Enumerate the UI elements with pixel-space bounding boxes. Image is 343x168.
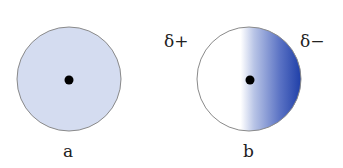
nucleus-dot (246, 76, 255, 85)
partial-negative-label: δ− (300, 31, 324, 51)
atom-polarization-diagram (0, 0, 343, 168)
atom-b (197, 27, 301, 131)
atom-a (17, 27, 121, 131)
partial-positive-label: δ+ (164, 31, 188, 51)
panel-label-b: b (243, 141, 254, 161)
nucleus-dot (65, 76, 74, 85)
panel-label-a: a (63, 141, 73, 161)
